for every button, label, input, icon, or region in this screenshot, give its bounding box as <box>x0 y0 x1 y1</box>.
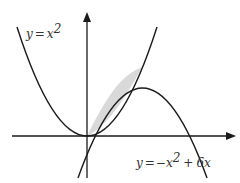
parabola-diagram: y=x2 y=−x2+6x <box>0 0 240 183</box>
diagram-canvas: y=x2 y=−x2+6x <box>0 0 240 183</box>
